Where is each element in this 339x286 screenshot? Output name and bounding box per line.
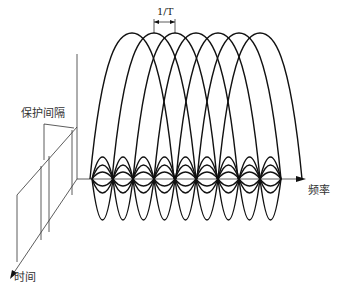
subcarrier-spacing-label: 1/T <box>157 6 173 18</box>
time-guard-panels <box>13 54 92 274</box>
ofdm-diagram <box>0 0 339 286</box>
spacing-dimension <box>154 19 175 33</box>
time-axis-label: 时间 <box>14 272 36 284</box>
guard-interval-label: 保护间隔 <box>21 108 65 120</box>
frequency-axis-label: 频率 <box>308 185 330 197</box>
subcarrier-lobes <box>90 33 302 220</box>
frequency-axis-arrowhead <box>296 176 306 182</box>
